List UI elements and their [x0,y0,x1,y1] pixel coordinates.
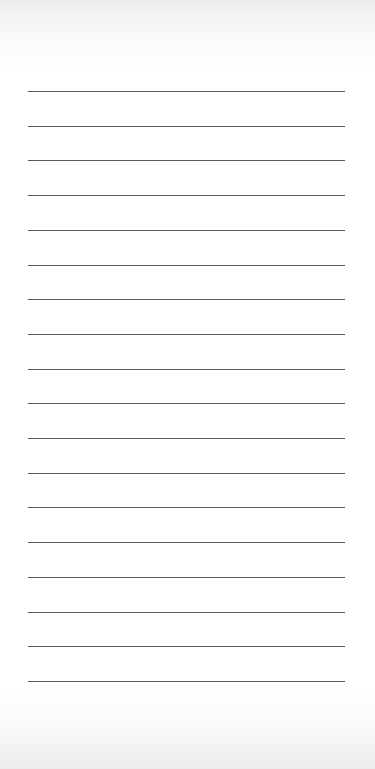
ruled-line [28,403,345,404]
ruled-line [28,681,345,682]
ruled-line [28,230,345,231]
ruled-line [28,91,345,92]
lined-paper-sheet [0,0,375,769]
ruled-line [28,299,345,300]
ruled-line [28,473,345,474]
ruled-line [28,334,345,335]
ruled-line [28,542,345,543]
ruled-line [28,195,345,196]
ruled-line [28,612,345,613]
ruled-line [28,507,345,508]
ruled-line [28,438,345,439]
ruled-line [28,126,345,127]
ruled-line [28,646,345,647]
ruled-line [28,265,345,266]
ruled-line [28,577,345,578]
ruled-line [28,369,345,370]
ruled-line [28,160,345,161]
